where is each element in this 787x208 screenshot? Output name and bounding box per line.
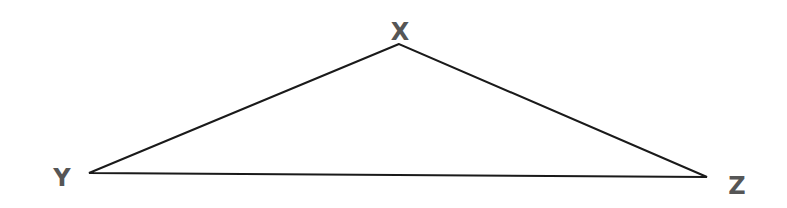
vertex-label-y: Y: [52, 164, 71, 192]
diagram-canvas: X Y Z: [0, 0, 787, 208]
triangle-xyz: [89, 44, 707, 177]
triangle-diagram: X Y Z: [0, 0, 787, 208]
vertex-label-z: Z: [728, 172, 745, 200]
vertex-label-x: X: [391, 18, 410, 46]
